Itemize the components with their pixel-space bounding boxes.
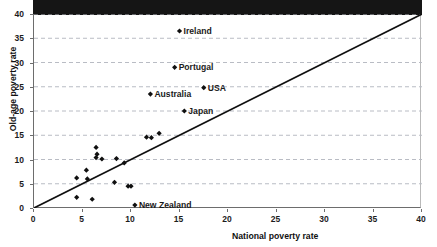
x-axis-tick-mark — [324, 209, 325, 212]
x-axis-tick-mark — [82, 209, 83, 212]
point-label-australia: Australia — [154, 89, 191, 99]
x-axis-tick-mark — [373, 209, 374, 212]
x-axis-tick-label: 30 — [319, 214, 328, 224]
data-point — [182, 108, 187, 113]
x-axis-tick-mark — [421, 209, 422, 212]
y-axis-tick-label: 0 — [19, 203, 24, 213]
scan-artifact-band — [33, 0, 422, 15]
data-point — [177, 28, 182, 33]
data-point — [114, 156, 119, 161]
x-axis-tick-mark — [33, 209, 34, 212]
data-point — [148, 91, 153, 96]
data-point — [74, 195, 79, 200]
x-axis-tick-label: 5 — [79, 214, 84, 224]
plot-svg — [34, 14, 422, 208]
x-axis-tick-mark — [276, 209, 277, 212]
point-label-portugal: Portugal — [179, 62, 214, 72]
data-point — [172, 65, 177, 70]
x-axis-tick-mark — [227, 209, 228, 212]
x-axis-tick-mark — [179, 209, 180, 212]
x-axis-tick-label: 20 — [222, 214, 231, 224]
x-axis-tick-label: 10 — [125, 214, 134, 224]
x-axis-tick-label: 40 — [416, 214, 425, 224]
y-axis-tick-label: 5 — [19, 179, 24, 189]
x-axis-tick-mark — [130, 209, 131, 212]
plot-area — [33, 14, 421, 208]
data-point — [99, 156, 104, 161]
x-axis-tick-label: 0 — [31, 214, 36, 224]
data-point — [93, 145, 98, 150]
data-point — [122, 160, 127, 165]
y-axis-tick-label: 40 — [15, 9, 24, 19]
y-axis-title: Old-age poverty rate — [8, 29, 18, 149]
scatter-chart-figure: 0510152025303540 Old-age poverty rate Na… — [0, 0, 437, 247]
x-axis-tick-label: 25 — [271, 214, 280, 224]
data-point — [84, 168, 89, 173]
point-label-usa: USA — [208, 83, 226, 93]
point-label-japan: Japan — [188, 106, 213, 116]
data-point — [128, 184, 133, 189]
data-point — [132, 202, 137, 207]
data-point — [90, 197, 95, 202]
y-axis-tick-label: 10 — [15, 155, 24, 165]
point-label-ireland: Ireland — [184, 26, 212, 36]
data-point — [149, 135, 154, 140]
data-point — [201, 85, 206, 90]
data-point — [74, 175, 79, 180]
x-axis-tick-label: 35 — [368, 214, 377, 224]
x-axis-tick-label: 15 — [174, 214, 183, 224]
x-axis-title: National poverty rate — [232, 231, 318, 241]
point-label-new-zealand: New Zealand — [139, 200, 192, 210]
